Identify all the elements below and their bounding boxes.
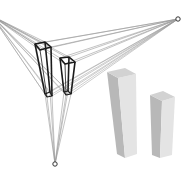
wire-tall <box>35 42 52 97</box>
vp-bottom-marker <box>53 162 57 166</box>
solid-tall <box>107 68 137 158</box>
wire-edge <box>68 57 69 91</box>
construction-line <box>40 19 178 50</box>
wire-edge <box>45 42 50 92</box>
construction-line <box>55 92 64 164</box>
construction-line <box>0 16 45 94</box>
shaded-solid-boxes <box>107 68 175 158</box>
construction-line <box>55 95 66 164</box>
construction-line <box>55 94 71 164</box>
box-right-face <box>160 97 175 158</box>
wire-top <box>35 42 51 50</box>
construction-line <box>0 16 69 57</box>
box-left-face <box>150 95 162 158</box>
solid-short <box>150 91 175 158</box>
construction-lines <box>0 16 178 164</box>
vp-right-marker <box>176 17 180 21</box>
wire-edge-hidden <box>65 64 66 95</box>
wire-edge <box>51 47 52 96</box>
construction-line <box>0 16 47 97</box>
wire-short <box>60 57 75 95</box>
three-point-perspective-diagram <box>0 0 189 174</box>
